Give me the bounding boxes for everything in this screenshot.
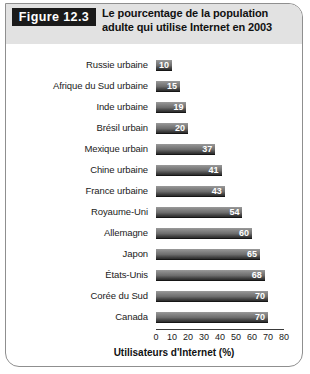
bar-value-label: 60 [156,228,249,239]
bar-row: Corée du Sud70 [6,287,302,308]
bar-value-label: 70 [156,291,265,302]
bar-value-label: 65 [156,249,257,260]
bar-value-label: 15 [156,81,177,92]
bar-chart-plot-area: Russie urbaine10Afrique du Sud urbaine15… [6,44,302,366]
bar-value-label: 20 [156,123,185,134]
bar-row: Brésil urbain20 [6,119,302,140]
bar-value-label: 41 [156,165,219,176]
figure-card: Figure 12.3 Le pourcentage de la populat… [5,3,303,367]
x-axis-line [156,329,284,330]
bar-row: Chine urbaine41 [6,161,302,182]
bar-category-label: France urbaine [6,185,148,196]
bar-row: États-Unis68 [6,266,302,287]
bar-category-label: Japon [6,248,148,259]
bar-row: Russie urbaine10 [6,56,302,77]
figure-number-badge: Figure 12.3 [12,8,96,26]
figure-title: Le pourcentage de la population adulte q… [102,7,296,34]
bar-row: Allemagne60 [6,224,302,245]
bar-row: Afrique du Sud urbaine15 [6,77,302,98]
figure-header: Figure 12.3 Le pourcentage de la populat… [6,4,302,44]
bar-category-label: Mexique urbain [6,143,148,154]
bar-value-label: 10 [156,60,169,71]
bar-row: France urbaine43 [6,182,302,203]
bar-row: Mexique urbain37 [6,140,302,161]
figure-title-line-1: Le pourcentage de la population [102,7,296,21]
bar-category-label: Royaume-Uni [6,206,148,217]
bar-category-label: Brésil urbain [6,122,148,133]
bar-row: Canada70 [6,308,302,329]
bar-value-label: 68 [156,270,262,281]
bar-category-label: Allemagne [6,227,148,238]
bar-value-label: 19 [156,102,183,113]
bar-category-label: Corée du Sud [6,290,148,301]
bar-value-label: 37 [156,144,212,155]
x-axis-title: Utilisateurs d'Internet (%) [6,347,302,358]
figure-title-line-2: adulte qui utilise Internet en 2003 [102,21,296,35]
bar-row: Royaume-Uni54 [6,203,302,224]
bar-value-label: 54 [156,207,239,218]
bar-value-label: 43 [156,186,222,197]
bar-value-label: 70 [156,312,265,323]
bar-category-label: Russie urbaine [6,59,148,70]
x-axis-tick-label: 80 [274,332,294,342]
bar-category-label: Canada [6,311,148,322]
bar-row: Inde urbaine19 [6,98,302,119]
bar-category-label: Afrique du Sud urbaine [6,80,148,91]
bar-row: Japon65 [6,245,302,266]
bar-category-label: Inde urbaine [6,101,148,112]
bar-category-label: Chine urbaine [6,164,148,175]
bar-category-label: États-Unis [6,269,148,280]
